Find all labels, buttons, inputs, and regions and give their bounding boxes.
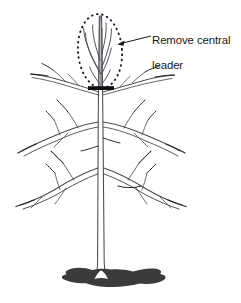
annotation-label: Remove central leader [152, 21, 238, 71]
pruning-diagram-figure: Remove central leader [0, 0, 241, 303]
annotation-label-line1: Remove central [152, 34, 230, 46]
pruning-cut-bar [88, 86, 114, 90]
annotation-label-line2: leader [152, 59, 183, 71]
